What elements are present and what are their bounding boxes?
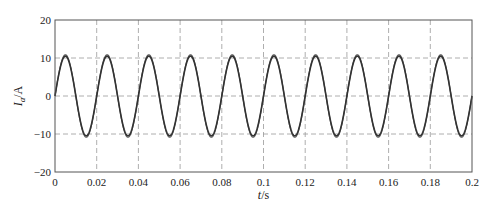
y-tick-label: 0: [46, 90, 52, 102]
x-tick-label: 0.08: [212, 176, 232, 188]
x-tick-label: 0.12: [296, 176, 315, 188]
y-axis-ticks: −20−1001020: [34, 14, 52, 178]
x-axis-label-unit: /s: [261, 188, 269, 202]
y-axis-label: Ia/A: [11, 85, 27, 107]
x-tick-label: 0.2: [465, 176, 479, 188]
line-chart: −20−1001020 00.020.040.060.080.10.120.14…: [0, 0, 498, 210]
x-tick-label: 0.1: [257, 176, 271, 188]
x-tick-label: 0: [52, 176, 58, 188]
x-tick-label: 0.18: [421, 176, 441, 188]
x-tick-label: 0.14: [337, 176, 357, 188]
y-axis-label-unit: /A: [11, 85, 25, 97]
y-tick-label: −20: [34, 166, 52, 178]
x-axis-ticks: 00.020.040.060.080.10.120.140.160.180.2: [52, 176, 479, 188]
x-tick-label: 0.16: [379, 176, 399, 188]
x-tick-label: 0.02: [87, 176, 106, 188]
x-tick-label: 0.06: [170, 176, 190, 188]
x-tick-label: 0.04: [129, 176, 149, 188]
y-tick-label: 10: [40, 52, 52, 64]
y-tick-label: 20: [40, 14, 52, 26]
y-tick-label: −10: [34, 128, 52, 140]
x-axis-label: t/s: [258, 188, 270, 202]
